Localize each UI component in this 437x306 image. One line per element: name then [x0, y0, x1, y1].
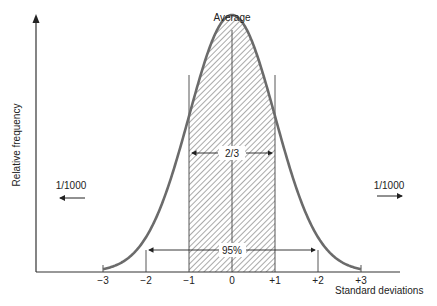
two-thirds-label: 2/3: [225, 148, 239, 159]
tick-plus-2: +2: [312, 275, 324, 286]
right-tail-label: 1/1000: [374, 180, 405, 191]
tick-plus-3: +3: [355, 275, 367, 286]
y-axis-label: Relative frequency: [11, 104, 22, 187]
x-axis-label: Standard deviations: [335, 285, 423, 296]
tick-minus-1: −1: [183, 275, 195, 286]
tick-minus-2: −2: [140, 275, 152, 286]
average-title: Average: [213, 12, 251, 23]
tick-minus-3: −3: [97, 275, 109, 286]
normal-distribution-diagram: 2/3 95% Average Relative frequency Stand…: [0, 0, 437, 306]
tick-plus-1: +1: [269, 275, 281, 286]
y-axis-arrow-icon: [33, 14, 40, 23]
left-tail-label: 1/1000: [56, 180, 87, 191]
tick-0: 0: [229, 275, 235, 286]
ninety-five-label: 95%: [222, 245, 242, 256]
